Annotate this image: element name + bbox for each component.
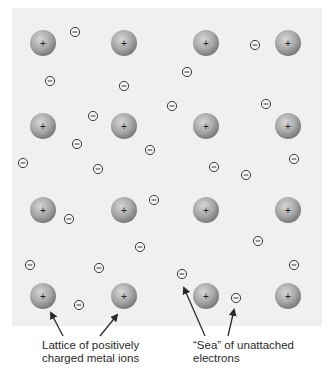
electron <box>25 260 34 269</box>
electron <box>64 214 73 223</box>
label-sea-line-2: electrons <box>193 352 294 365</box>
electron <box>119 81 128 90</box>
metal-ion: + <box>30 197 56 223</box>
label-sea-of-electrons: “Sea” of unattached electrons <box>193 339 294 365</box>
label-lattice-line-2: charged metal ions <box>42 352 139 365</box>
metal-ion: + <box>111 30 137 56</box>
plus-sign-icon: + <box>40 121 46 132</box>
metal-ion: + <box>193 30 219 56</box>
electron <box>209 162 218 171</box>
electron <box>241 170 250 179</box>
metallic-bond-diagram: ++++++++++++++++ <box>0 0 334 378</box>
electron <box>177 269 186 278</box>
electron <box>253 236 262 245</box>
metal-ion: + <box>275 113 301 139</box>
electron <box>261 99 270 108</box>
plus-sign-icon: + <box>203 121 209 132</box>
electron <box>74 300 83 309</box>
plus-sign-icon: + <box>121 291 127 302</box>
label-lattice-of-ions: Lattice of positively charged metal ions <box>42 339 139 365</box>
metal-ion: + <box>111 283 137 309</box>
electron <box>18 158 27 167</box>
metal-ion: + <box>111 197 137 223</box>
plus-sign-icon: + <box>285 291 291 302</box>
electron <box>149 195 158 204</box>
electron <box>250 40 259 49</box>
electron <box>72 139 81 148</box>
plus-sign-icon: + <box>285 38 291 49</box>
label-lattice-line-1: Lattice of positively <box>42 339 139 352</box>
background-panel <box>12 8 322 326</box>
plus-sign-icon: + <box>285 205 291 216</box>
label-sea-line-1: “Sea” of unattached <box>193 339 294 352</box>
electron <box>88 111 97 120</box>
metal-ion: + <box>30 30 56 56</box>
plus-sign-icon: + <box>203 205 209 216</box>
metal-ion: + <box>275 197 301 223</box>
plus-sign-icon: + <box>121 38 127 49</box>
metal-ion: + <box>193 113 219 139</box>
metal-ion: + <box>275 30 301 56</box>
electron <box>167 101 176 110</box>
metal-ion: + <box>193 283 219 309</box>
electron <box>93 164 102 173</box>
electron <box>182 67 191 76</box>
electron <box>289 260 298 269</box>
metal-ion: + <box>111 113 137 139</box>
metal-ion: + <box>30 113 56 139</box>
electron <box>145 145 154 154</box>
plus-sign-icon: + <box>285 121 291 132</box>
electron <box>231 293 240 302</box>
metal-ion: + <box>30 283 56 309</box>
plus-sign-icon: + <box>203 38 209 49</box>
plus-sign-icon: + <box>40 38 46 49</box>
plus-sign-icon: + <box>121 121 127 132</box>
electron <box>45 76 54 85</box>
metal-ion: + <box>275 283 301 309</box>
plus-sign-icon: + <box>203 291 209 302</box>
electron <box>289 154 298 163</box>
electron <box>135 242 144 251</box>
plus-sign-icon: + <box>40 205 46 216</box>
electron <box>94 263 103 272</box>
electron <box>70 27 79 36</box>
metal-ion: + <box>193 197 219 223</box>
plus-sign-icon: + <box>40 291 46 302</box>
plus-sign-icon: + <box>121 205 127 216</box>
